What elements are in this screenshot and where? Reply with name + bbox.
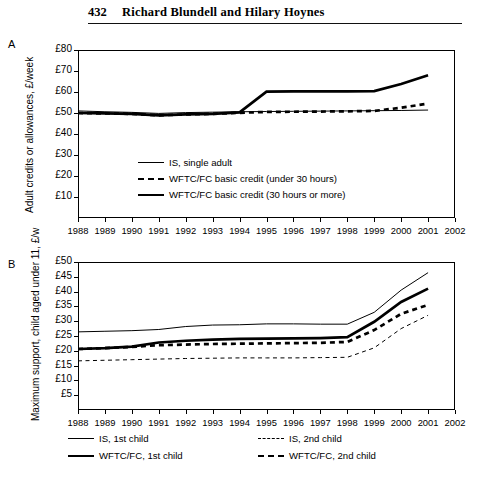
legend-item: WFTC/FC, 1st child bbox=[68, 449, 183, 461]
legend-item: WFTC/FC, 2nd child bbox=[258, 449, 376, 461]
legend-swatch-icon bbox=[138, 157, 164, 167]
series-line bbox=[78, 289, 428, 349]
legend-label: WFTC/FC basic credit (30 hours or more) bbox=[169, 189, 345, 200]
legend-item: WFTC/FC basic credit (30 hours or more) bbox=[138, 188, 345, 200]
legend-swatch-icon bbox=[258, 450, 284, 460]
legend-item: IS, single adult bbox=[138, 156, 232, 168]
legend-label: WFTC/FC basic credit (under 30 hours) bbox=[169, 173, 337, 184]
panel-a: A Adult credits or allowances, £/week £8… bbox=[0, 0, 479, 245]
legend-label: WFTC/FC, 2nd child bbox=[289, 450, 376, 461]
legend-swatch-icon bbox=[138, 189, 164, 199]
legend-swatch-icon bbox=[258, 433, 284, 443]
panel-a-series bbox=[0, 0, 479, 245]
figure-page: 432 Richard Blundell and Hilary Hoynes A… bbox=[0, 0, 479, 479]
series-line bbox=[78, 75, 428, 115]
series-line bbox=[78, 273, 428, 332]
legend-label: IS, single adult bbox=[169, 157, 232, 168]
legend-swatch-icon bbox=[68, 433, 94, 443]
legend-swatch-icon bbox=[68, 450, 94, 460]
legend-item: WFTC/FC basic credit (under 30 hours) bbox=[138, 172, 337, 184]
legend-label: IS, 2nd child bbox=[289, 433, 342, 444]
legend-item: IS, 1st child bbox=[68, 432, 149, 444]
legend-item: IS, 2nd child bbox=[258, 432, 342, 444]
legend-swatch-icon bbox=[138, 173, 164, 183]
legend-label: WFTC/FC, 1st child bbox=[99, 450, 183, 461]
legend-label: IS, 1st child bbox=[99, 433, 149, 444]
panel-b: B Maximum support, child aged under 11, … bbox=[0, 245, 479, 479]
